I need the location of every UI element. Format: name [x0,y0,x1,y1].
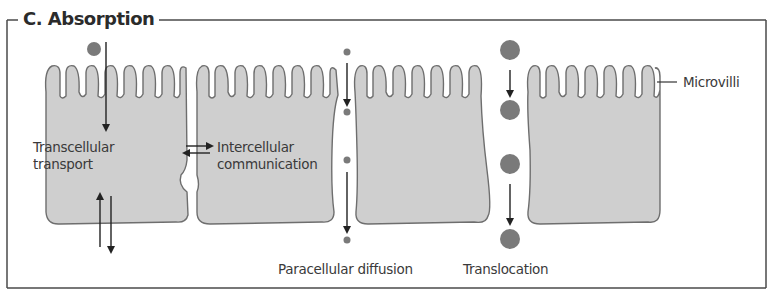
transcellular-particle [87,42,101,56]
paracellular-particle-mid2 [344,157,351,164]
label-microvilli: Microvilli [683,74,739,91]
label-transcellular-line2: transport [33,156,93,173]
translocation-particle-mid2 [500,154,520,174]
label-intercellular-line1: Intercellular [217,139,294,156]
absorption-diagram: C. Absorption Microvilli Transcellular t… [0,0,768,295]
translocation-particle-mid1 [500,100,520,120]
paracellular-particle-mid1 [344,109,351,116]
label-transcellular-line1: Transcellular [33,139,114,156]
translocation-particle-top [500,40,520,60]
label-translocation: Translocation [463,261,548,278]
enterocyte-cell-3 [355,66,490,224]
enterocyte-cell-4 [528,66,660,224]
diagram-canvas [0,0,768,295]
label-intercellular-line2: communication [217,156,318,173]
figure-title: C. Absorption [18,8,159,29]
label-paracellular-diffusion: Paracellular diffusion [278,261,413,278]
paracellular-particle-bottom [344,237,351,244]
paracellular-particle-top [344,49,351,56]
translocation-particle-bottom [500,229,520,249]
